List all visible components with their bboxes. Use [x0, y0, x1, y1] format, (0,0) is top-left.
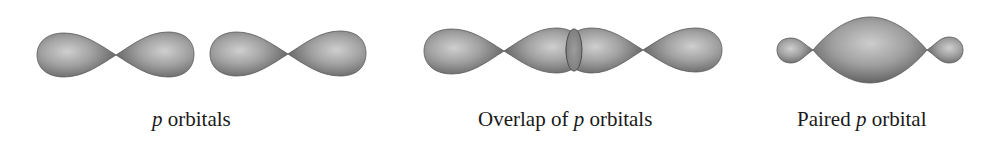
caption-prefix: Paired [797, 107, 856, 131]
small-lobe-left [777, 38, 813, 63]
caption-italic-p: p [152, 107, 163, 131]
caption-text: orbitals [584, 107, 652, 131]
lobe-outer-left [424, 29, 504, 74]
lobe-right [288, 31, 366, 76]
caption-text: orbital [866, 107, 926, 131]
overlapping-orbitals [424, 28, 722, 74]
lobe-outer-right [643, 28, 722, 72]
lobe-right [116, 32, 194, 77]
caption-text: orbitals [163, 107, 231, 131]
p-orbital-2 [210, 31, 366, 76]
lobe-left [37, 33, 116, 77]
caption-italic-p: p [856, 107, 867, 131]
overlap-region [566, 29, 582, 71]
p-orbital-1 [37, 32, 194, 77]
caption-overlap: Overlap of p orbitals [478, 107, 652, 131]
orbital-diagram [0, 0, 997, 155]
lobe-left [210, 32, 288, 76]
caption-italic-p: p [574, 107, 585, 131]
central-lobe [813, 17, 927, 83]
paired-orbital [777, 17, 963, 83]
small-lobe-right [927, 37, 963, 63]
caption-paired: Paired p orbital [797, 107, 926, 131]
caption-prefix: Overlap of [478, 107, 574, 131]
caption-p-orbitals: p orbitals [152, 107, 231, 131]
